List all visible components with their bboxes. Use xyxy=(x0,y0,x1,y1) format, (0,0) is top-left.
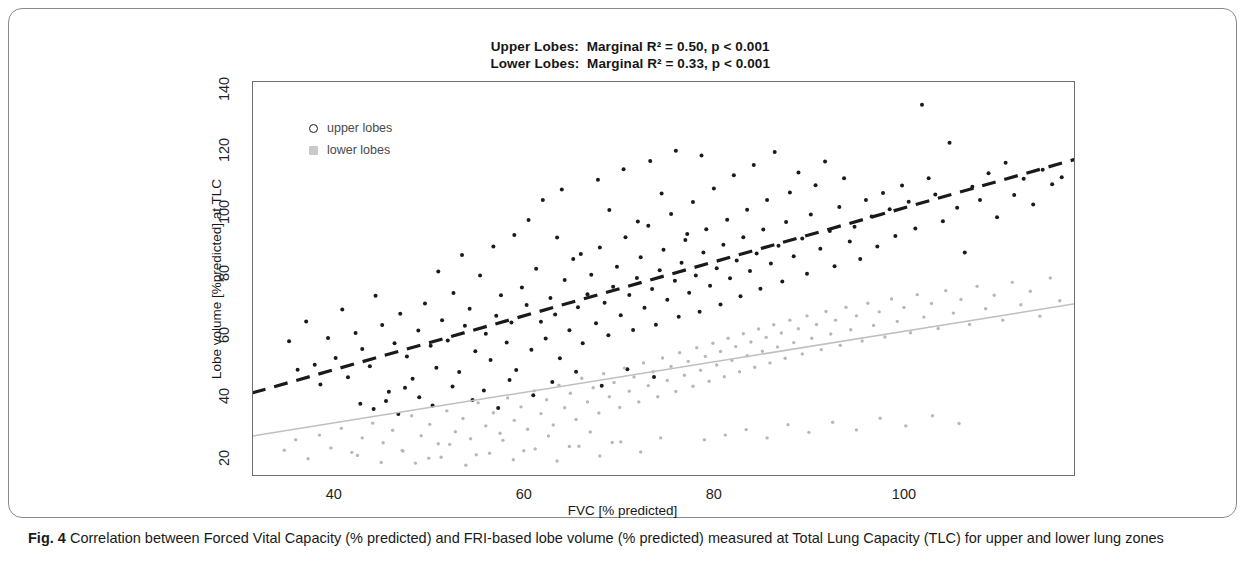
y-tick-100: 100 xyxy=(216,200,232,224)
legend-item-upper-lobes: upper lobes xyxy=(309,117,392,139)
plot-title-line-upper: Upper Lobes: Marginal R² = 0.50, p < 0.0… xyxy=(491,38,770,55)
figure-frame: Upper Lobes: Marginal R² = 0.50, p < 0.0… xyxy=(8,8,1237,518)
y-tick-60: 60 xyxy=(216,327,232,343)
x-tick-60: 60 xyxy=(516,486,532,502)
legend-label-upper-lobes: upper lobes xyxy=(327,117,392,139)
figure-number: Fig. 4 xyxy=(28,530,66,546)
y-tick-80: 80 xyxy=(216,265,232,281)
x-tick-40: 40 xyxy=(326,486,342,502)
legend-item-lower-lobes: lower lobes xyxy=(309,139,392,161)
open-circle-icon xyxy=(309,124,318,133)
figure-caption-text: Correlation between Forced Vital Capacit… xyxy=(66,530,1164,546)
y-tick-20: 20 xyxy=(216,449,232,465)
x-tick-80: 80 xyxy=(706,486,722,502)
x-tick-100: 100 xyxy=(892,486,916,502)
legend-label-lower-lobes: lower lobes xyxy=(327,139,390,161)
figure-caption: Fig. 4 Correlation between Forced Vital … xyxy=(28,527,1224,550)
y-tick-120: 120 xyxy=(216,138,232,162)
y-tick-40: 40 xyxy=(216,388,232,404)
plot-title: Upper Lobes: Marginal R² = 0.50, p < 0.0… xyxy=(9,21,1236,89)
y-tick-140: 140 xyxy=(216,77,232,101)
plot-legend: upper lobes lower lobes xyxy=(309,117,392,161)
x-axis-title: FVC [% predicted] xyxy=(9,503,1236,518)
plot-title-line-lower: Lower Lobes: Marginal R² = 0.33, p < 0.0… xyxy=(490,55,770,72)
filled-square-icon xyxy=(309,146,318,155)
